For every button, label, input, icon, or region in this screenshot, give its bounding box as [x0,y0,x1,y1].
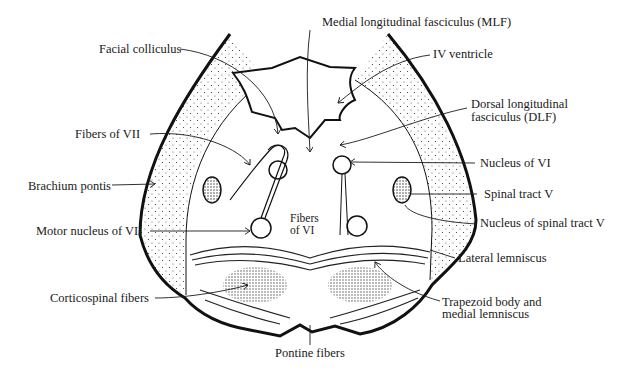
label-brachium-pontis: Brachium pontis [28,180,111,193]
label-pontine-fibers: Pontine fibers [275,347,345,360]
label-fibers-vi-line2: of VI [290,224,314,236]
left-spinal-tract-v [203,177,221,203]
right-motor-nucleus-vii [347,216,367,236]
label-iv-ventricle: IV ventricle [433,48,493,61]
label-fibers-vi-line1: Fibers [290,212,319,224]
right-spinal-tract-v [393,177,411,203]
label-nucleus-vi: Nucleus of VI [480,157,551,170]
pons-diagram: Medial longitudinal fasciculus (MLF) Fac… [0,0,640,378]
label-dlf-line2: fasciculus (DLF) [471,111,556,124]
label-nucleus-spinal-tract-v: Nucleus of spinal tract V [480,217,605,230]
left-motor-nucleus-vii [251,218,271,238]
label-trapezoid-line2: medial lemniscus [442,308,529,321]
label-fibers-vii: Fibers of VII [75,128,140,141]
label-lateral-lemniscus: Lateral lemniscus [458,252,547,265]
right-nucleus-vi [333,156,351,174]
label-mlf: Medial longitudinal fasciculus (MLF) [322,16,511,29]
label-spinal-tract-v: Spinal tract V [484,188,553,201]
label-facial-colliculus: Facial colliculus [99,43,181,56]
label-motor-nucleus-vii: Motor nucleus of VII [36,225,142,238]
label-corticospinal: Corticospinal fibers [50,292,149,305]
